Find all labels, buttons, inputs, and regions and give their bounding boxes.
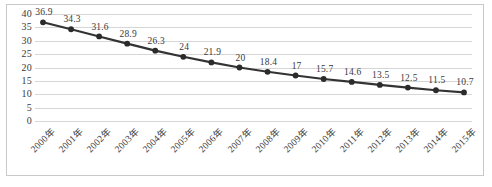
y-tick-label: 20 bbox=[21, 63, 32, 73]
data-point-label: 12.5 bbox=[400, 73, 417, 83]
data-point-label: 26.3 bbox=[148, 36, 165, 46]
data-point-marker bbox=[461, 89, 467, 95]
x-tick-label: 2003年 bbox=[111, 124, 142, 155]
y-tick-label: 10 bbox=[21, 89, 32, 99]
data-point-marker bbox=[209, 60, 215, 66]
data-point-marker bbox=[68, 26, 74, 32]
x-tick-label: 2005年 bbox=[167, 124, 198, 155]
data-point-label: 14.6 bbox=[344, 67, 361, 77]
x-tick-label: 2001年 bbox=[55, 124, 86, 155]
x-tick-label: 2004年 bbox=[139, 124, 170, 155]
chart-container: 4035302520151050 36.934.331.628.926.3242… bbox=[0, 0, 492, 187]
x-tick-label: 2008年 bbox=[251, 124, 282, 155]
data-point-label: 18.4 bbox=[260, 57, 277, 67]
data-point-label: 21.9 bbox=[204, 48, 221, 58]
data-point-label: 34.3 bbox=[63, 15, 80, 25]
data-point-marker bbox=[349, 79, 355, 85]
y-tick-label: 0 bbox=[27, 116, 32, 126]
y-tick-label: 35 bbox=[21, 22, 32, 32]
data-point-marker bbox=[96, 34, 102, 40]
data-point-label: 13.5 bbox=[372, 70, 389, 80]
data-point-label: 28.9 bbox=[119, 29, 136, 39]
y-axis: 4035302520151050 bbox=[8, 0, 32, 187]
data-point-marker bbox=[40, 19, 46, 25]
data-point-marker bbox=[377, 82, 383, 88]
y-tick-label: 40 bbox=[21, 9, 32, 19]
y-tick-label: 5 bbox=[27, 103, 32, 113]
data-point-label: 36.9 bbox=[35, 8, 52, 18]
x-tick-label: 2011年 bbox=[336, 124, 367, 155]
gridline bbox=[35, 121, 472, 122]
data-point-marker bbox=[265, 69, 271, 75]
plot-area: 36.934.331.628.926.32421.92018.41715.714… bbox=[35, 14, 472, 121]
data-point-marker bbox=[321, 76, 327, 82]
data-point-marker bbox=[237, 65, 243, 71]
data-point-label: 20 bbox=[236, 53, 246, 63]
x-axis: 2000年2001年2002年2003年2004年2005年2006年2007年… bbox=[35, 124, 472, 184]
data-point-marker bbox=[180, 54, 186, 60]
x-tick-label: 2014年 bbox=[420, 124, 451, 155]
x-tick-label: 2006年 bbox=[195, 124, 226, 155]
x-tick-label: 2013年 bbox=[392, 124, 423, 155]
data-point-marker bbox=[405, 85, 411, 91]
data-point-label: 15.7 bbox=[316, 65, 333, 75]
data-point-marker bbox=[433, 87, 439, 93]
x-tick-label: 2009年 bbox=[279, 124, 310, 155]
data-point-label: 31.6 bbox=[91, 22, 108, 32]
x-tick-label: 2012年 bbox=[364, 124, 395, 155]
x-tick-label: 2002年 bbox=[83, 124, 114, 155]
x-tick-label: 2007年 bbox=[223, 124, 254, 155]
y-tick-label: 25 bbox=[21, 49, 32, 59]
x-tick-label: 2010年 bbox=[307, 124, 338, 155]
data-point-marker bbox=[124, 41, 130, 47]
y-tick-label: 30 bbox=[21, 36, 32, 46]
data-point-label: 10.7 bbox=[456, 78, 473, 88]
data-point-label: 17 bbox=[292, 61, 302, 71]
data-point-label: 11.5 bbox=[428, 76, 445, 86]
y-tick-label: 15 bbox=[21, 76, 32, 86]
data-point-marker bbox=[152, 48, 158, 54]
data-point-label: 24 bbox=[179, 42, 189, 52]
data-point-marker bbox=[293, 73, 299, 79]
